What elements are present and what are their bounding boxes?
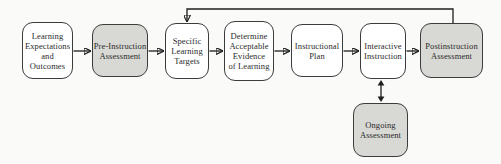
flow-box-label: Instructional Plan	[295, 41, 339, 61]
flow-box-postinstruction-assessment: Postinstruction Assessment	[420, 23, 483, 78]
connector-interactive-ongoing-bidirectional	[378, 80, 385, 102]
flow-box-instructional-plan: Instructional Plan	[291, 24, 343, 77]
flow-box-determine-acceptable-evidence: Determine Acceptable Evidence of Learnin…	[224, 21, 274, 81]
flow-box-ongoing-assessment: Ongoing Assessment	[353, 103, 408, 157]
flow-box-pre-instruction-assessment: Pre-Instruction Assessment	[92, 24, 148, 77]
flow-box-label: Interactive Instruction	[364, 41, 402, 61]
flow-box-interactive-instruction: Interactive Instruction	[360, 23, 406, 79]
flow-box-label: Specific Learning Targets	[171, 36, 202, 66]
flow-box-label: Determine Acceptable Evidence of Learnin…	[229, 31, 270, 71]
flow-box-label: Learning Expectations and Outcomes	[25, 31, 70, 71]
flow-box-learning-expectations: Learning Expectations and Outcomes	[22, 22, 73, 79]
flow-box-specific-learning-targets: Specific Learning Targets	[165, 23, 209, 79]
flow-box-label: Ongoing Assessment	[360, 120, 401, 140]
flow-box-label: Pre-Instruction Assessment	[94, 41, 147, 61]
flow-box-label: Postinstruction Assessment	[425, 41, 478, 61]
flowchart-canvas: Learning Expectations and Outcomes Pre-I…	[0, 0, 501, 164]
connector-feedback-loop	[187, 9, 453, 23]
